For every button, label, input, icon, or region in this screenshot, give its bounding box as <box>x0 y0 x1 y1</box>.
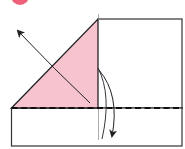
lower-rectangle <box>12 108 183 146</box>
upper-right-rectangle <box>98 19 182 108</box>
step-number-badge <box>11 0 29 5</box>
origami-diagram <box>0 0 185 149</box>
pink-triangle-flap <box>12 19 99 108</box>
